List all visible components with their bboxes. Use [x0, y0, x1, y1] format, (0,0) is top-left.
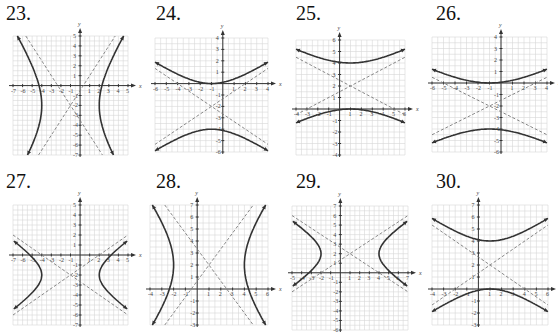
x-tick-label: -5 [290, 275, 295, 281]
y-tick-label: 4 [333, 232, 336, 238]
x-tick-label: 5 [126, 88, 129, 94]
y-axis-arrow-icon [499, 29, 503, 34]
x-tick-label: -4 [176, 86, 181, 92]
y-tick-label: 3 [73, 53, 76, 59]
y-axis-arrow-icon [78, 28, 82, 33]
x-tick-label: -3 [442, 291, 447, 297]
y-tick-label: 5 [333, 49, 336, 55]
x-tick-label: -5 [442, 85, 447, 91]
problem-number: 25. [296, 2, 321, 25]
y-tick-label: 3 [471, 250, 474, 256]
y-tick-label: 2 [471, 262, 474, 268]
x-tick-label: 4 [377, 275, 380, 281]
y-tick-label: 2 [333, 83, 336, 89]
x-axis-arrow-icon [408, 107, 413, 111]
x-axis-arrow-icon [550, 81, 555, 85]
problem-number: 26. [436, 2, 461, 25]
y-tick-label: 2 [190, 262, 193, 268]
x-tick-label: 2 [358, 275, 361, 281]
x-tick-label: 2 [522, 85, 525, 91]
x-tick-label: 3 [534, 85, 537, 91]
y-tick-label: 6 [471, 214, 474, 220]
y-axis-arrow-icon [338, 198, 342, 203]
y-tick-label: -5 [333, 317, 338, 323]
y-tick-label: 4 [73, 212, 76, 218]
y-tick-label: -1 [216, 92, 221, 98]
x-tick-label: 2 [500, 291, 503, 297]
x-tick-label: -1 [488, 85, 493, 91]
y-tick-label: -6 [73, 142, 78, 148]
x-tick-label: -2 [198, 86, 203, 92]
y-tick-label: -4 [73, 292, 78, 298]
x-tick-label: 6 [266, 291, 269, 297]
y-axis-arrow-icon [476, 197, 480, 202]
x-tick-label: -4 [40, 257, 45, 263]
y-tick-label: 6 [333, 213, 336, 219]
y-tick-label: -1 [73, 262, 78, 268]
y-axis-label: y [220, 23, 224, 29]
y-tick-label: -1 [471, 298, 476, 304]
problem-number: 29. [296, 170, 321, 193]
y-tick-label: 3 [190, 250, 193, 256]
x-tick-label: -3 [465, 85, 470, 91]
y-tick-label: -7 [73, 152, 78, 158]
y-tick-label: -3 [333, 141, 338, 147]
y-tick-label: 5 [73, 33, 76, 39]
x-tick-label: -6 [430, 85, 435, 91]
grid [296, 40, 405, 155]
y-tick-label: -2 [333, 129, 338, 135]
x-tick-label: 4 [266, 86, 269, 92]
x-tick-label: -2 [59, 257, 64, 263]
grid [13, 205, 128, 325]
x-tick-label: -3 [160, 291, 165, 297]
x-axis-arrow-icon [411, 271, 416, 275]
x-tick-label: -3 [305, 111, 310, 117]
x-axis-label: x [278, 286, 282, 292]
y-tick-label: -3 [190, 322, 195, 328]
y-tick-label: -1 [333, 279, 338, 285]
y-axis-arrow-icon [78, 197, 82, 202]
x-tick-label: -2 [172, 291, 177, 297]
hyperbola-plot-27: xy-7-6-5-4-3-2-112345-7-6-5-4-3-2-112345 [13, 205, 128, 325]
x-axis-label: x [138, 252, 142, 258]
y-tick-label: -3 [494, 115, 499, 121]
y-tick-label: -4 [333, 152, 338, 158]
y-tick-label: 7 [190, 202, 193, 208]
x-tick-label: 1 [88, 88, 91, 94]
y-tick-label: -6 [333, 327, 338, 333]
y-axis-label: y [77, 190, 81, 196]
x-tick-label: 5 [392, 111, 395, 117]
y-tick-label: -5 [494, 138, 499, 144]
y-tick-label: 5 [190, 226, 193, 232]
y-tick-label: -2 [190, 310, 195, 316]
y-tick-label: -7 [73, 322, 78, 328]
y-tick-label: -5 [73, 132, 78, 138]
y-tick-label: -4 [73, 122, 78, 128]
y-tick-label: 1 [494, 69, 497, 75]
x-tick-label: 6 [546, 291, 549, 297]
x-tick-label: 1 [488, 291, 491, 297]
grid [13, 36, 128, 155]
x-tick-label: 1 [348, 275, 351, 281]
y-tick-label: 3 [216, 46, 219, 52]
x-tick-label: -6 [21, 88, 26, 94]
y-axis-label: y [498, 22, 502, 28]
hyperbola-plot-29: xy-5-4-3-2-11234567-6-5-4-3-2-11234567 [292, 206, 408, 330]
problem-number: 28. [156, 170, 181, 193]
y-axis-arrow-icon [195, 197, 199, 202]
y-tick-label: -1 [494, 92, 499, 98]
x-tick-label: -6 [153, 86, 158, 92]
y-tick-label: -5 [216, 138, 221, 144]
x-tick-label: 3 [107, 88, 110, 94]
x-tick-label: -4 [453, 85, 458, 91]
hyperbola-plot-28: xy-4-3-2-1123456-3-2-11234567 [150, 205, 268, 325]
y-tick-label: 1 [73, 73, 76, 79]
y-tick-label: 2 [73, 232, 76, 238]
grid [150, 205, 268, 325]
grid [432, 37, 547, 152]
y-tick-label: 7 [471, 202, 474, 208]
y-tick-label: -5 [73, 302, 78, 308]
x-axis-arrow-icon [271, 287, 276, 291]
x-tick-label: 2 [243, 86, 246, 92]
y-axis-arrow-icon [338, 32, 342, 37]
